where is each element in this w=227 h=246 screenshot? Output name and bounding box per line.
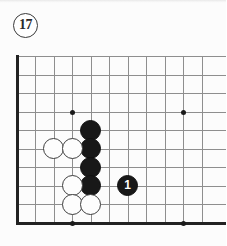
grid-line-horizontal	[17, 130, 227, 131]
go-diagram: 17 1	[0, 0, 226, 246]
grid-line-vertical	[183, 56, 184, 223]
star-point	[70, 110, 75, 115]
stone-white[interactable]	[62, 175, 83, 196]
board-edge-left	[16, 55, 19, 225]
grid-line-vertical	[35, 56, 36, 223]
stone-white[interactable]	[80, 194, 101, 215]
figure-number-badge: 17	[13, 13, 38, 38]
stone-black-move-1[interactable]: 1	[117, 175, 138, 196]
stone-black[interactable]	[80, 175, 101, 196]
grid-line-horizontal	[17, 93, 227, 94]
grid-line-horizontal	[17, 75, 227, 76]
figure-number-label: 17	[19, 18, 32, 33]
grid-line-horizontal	[17, 56, 227, 57]
star-point	[181, 110, 186, 115]
grid-line-horizontal	[17, 204, 227, 205]
grid-line-vertical	[109, 56, 110, 223]
stone-black[interactable]	[80, 138, 101, 159]
grid-line-vertical	[146, 56, 147, 223]
stone-white[interactable]	[43, 138, 64, 159]
stone-white[interactable]	[62, 138, 83, 159]
stone-move-number: 1	[124, 179, 131, 192]
grid-line-vertical	[128, 56, 129, 223]
go-board[interactable]: 1	[0, 42, 226, 246]
grid-line-vertical	[202, 56, 203, 223]
grid-line-vertical	[165, 56, 166, 223]
board-edge-bottom	[16, 222, 227, 225]
star-point	[70, 221, 75, 226]
grid-line-horizontal	[17, 112, 227, 113]
grid-line-horizontal	[17, 167, 227, 168]
star-point	[181, 221, 186, 226]
